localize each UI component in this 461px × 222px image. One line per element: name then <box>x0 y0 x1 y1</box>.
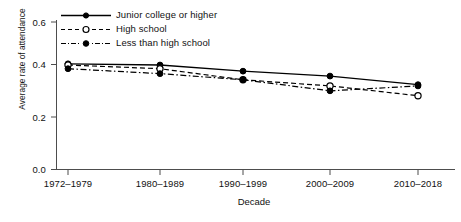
y-tick-label-0: 0.0 <box>16 164 46 175</box>
chart-figure: Average rate of attendance 0.0 0.2 0.4 0… <box>0 0 461 222</box>
y-tick-label-3: 0.6 <box>16 17 46 28</box>
legend-label-high-school: High school <box>112 23 167 34</box>
legend-swatch-dashdot-filled-circle-icon <box>60 37 112 50</box>
x-tick-label-4: 2010–2018 <box>373 178 461 189</box>
series-layer <box>65 61 421 99</box>
x-tick-label-3: 2000–2009 <box>285 178 375 189</box>
data-point <box>240 68 246 74</box>
data-point <box>327 73 333 79</box>
legend-swatch-solid-filled-circle-icon <box>60 9 112 22</box>
legend-item-less-than-high-school: Less than high school <box>60 36 260 49</box>
x-tick-label-1: 1980–1989 <box>115 178 205 189</box>
legend-key-junior-college <box>60 8 112 21</box>
legend-label-junior-college: Junior college or higher <box>112 9 217 20</box>
legend-swatch-dashed-open-circle-icon <box>60 23 112 36</box>
chart-legend: Junior college or higher High school L <box>60 8 260 50</box>
y-axis-label-wrapper: Average rate of attendance <box>0 0 40 190</box>
data-point <box>415 93 421 99</box>
legend-item-high-school: High school <box>60 22 260 35</box>
legend-label-less-than-high-school: Less than high school <box>112 37 210 48</box>
x-axis-label: Decade <box>56 196 452 207</box>
x-tick-label-0: 1972–1979 <box>23 178 113 189</box>
data-point <box>65 66 71 72</box>
data-point <box>157 71 163 77</box>
data-point <box>415 83 421 89</box>
data-point <box>240 77 246 83</box>
legend-item-junior-college: Junior college or higher <box>60 8 260 21</box>
x-axis-ticks <box>68 170 418 176</box>
y-tick-label-2: 0.4 <box>16 59 46 70</box>
y-tick-label-1: 0.2 <box>16 112 46 123</box>
legend-key-high-school <box>60 22 112 35</box>
y-axis-ticks <box>51 22 57 170</box>
x-tick-label-2: 1990–1999 <box>198 178 288 189</box>
legend-key-less-than-high-school <box>60 36 112 49</box>
data-point <box>327 88 333 94</box>
